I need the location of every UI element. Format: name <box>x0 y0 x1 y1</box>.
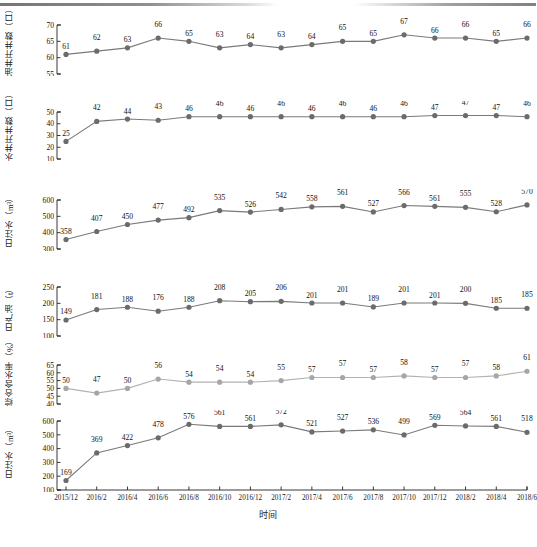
svg-text:600: 600 <box>43 417 55 426</box>
data-point <box>94 450 99 455</box>
data-label: 46 <box>185 104 193 113</box>
panel-plot-0: 5560657061626366656364636465656766666566 <box>0 14 536 76</box>
data-point <box>156 217 161 222</box>
data-point <box>248 42 253 47</box>
x-tick-2: 2016/4 <box>117 494 137 502</box>
x-axis-tick-labels: 2015/122016/22016/42016/62016/82016/1020… <box>0 494 536 506</box>
x-tick-13: 2018/2 <box>456 494 476 502</box>
data-point <box>309 375 314 380</box>
data-label: 526 <box>245 200 257 209</box>
svg-text:300: 300 <box>43 458 55 467</box>
chart-panel-0: 油井开井数（口）55606570616263666563646364656567… <box>0 14 536 76</box>
data-point <box>94 49 99 54</box>
data-point <box>94 229 99 234</box>
data-point <box>432 375 437 380</box>
data-label: 46 <box>277 101 285 108</box>
svg-text:200: 200 <box>43 472 55 481</box>
data-label: 527 <box>368 199 380 208</box>
svg-text:200: 200 <box>43 299 55 308</box>
x-tick-1: 2016/2 <box>87 494 107 502</box>
data-label: 542 <box>275 191 287 200</box>
svg-text:65: 65 <box>46 361 54 370</box>
data-point <box>371 114 376 119</box>
data-label: 46 <box>247 104 255 113</box>
data-label: 499 <box>398 417 410 426</box>
svg-text:250: 250 <box>43 283 55 292</box>
data-point <box>156 376 161 381</box>
data-point <box>248 299 253 304</box>
data-point <box>494 209 499 214</box>
data-label: 47 <box>93 375 101 384</box>
data-label: 62 <box>93 33 101 42</box>
data-label: 47 <box>492 103 500 112</box>
data-point <box>279 45 284 50</box>
data-label: 64 <box>308 32 316 41</box>
svg-text:150: 150 <box>43 315 55 324</box>
data-label: 65 <box>492 29 500 38</box>
data-point <box>309 114 314 119</box>
data-point <box>156 309 161 314</box>
data-label: 572 <box>275 410 287 416</box>
data-label: 208 <box>214 283 226 292</box>
data-label: 63 <box>277 30 285 39</box>
series-line <box>66 205 527 240</box>
data-label: 561 <box>491 414 503 423</box>
data-label: 200 <box>460 285 472 294</box>
series-line <box>66 301 527 320</box>
data-label: 54 <box>247 370 255 379</box>
data-point <box>309 300 314 305</box>
data-label: 57 <box>462 359 470 368</box>
data-point <box>463 301 468 306</box>
data-label: 46 <box>400 101 408 108</box>
svg-text:100: 100 <box>43 332 55 338</box>
data-point <box>125 305 130 310</box>
svg-text:55: 55 <box>46 376 54 385</box>
data-label: 66 <box>462 20 470 29</box>
data-label: 189 <box>368 294 380 303</box>
data-label: 201 <box>398 285 410 294</box>
data-point <box>524 369 529 374</box>
data-point <box>371 427 376 432</box>
data-label: 61 <box>62 42 70 51</box>
data-label: 149 <box>60 307 72 316</box>
data-point <box>248 209 253 214</box>
data-point <box>125 116 130 121</box>
data-point <box>371 209 376 214</box>
data-label: 61 <box>523 354 531 362</box>
chart-panel-3: 日产油（t）1001502002501491811881761882082052… <box>0 276 536 338</box>
data-label: 518 <box>521 414 533 423</box>
data-point <box>279 378 284 383</box>
data-point <box>432 35 437 40</box>
x-tick-14: 2018/4 <box>486 494 506 502</box>
data-label: 201 <box>337 285 349 294</box>
svg-text:50: 50 <box>46 384 54 393</box>
svg-text:55: 55 <box>46 70 54 76</box>
svg-text:400: 400 <box>43 444 55 453</box>
x-tick-6: 2016/12 <box>239 494 263 502</box>
data-point <box>217 298 222 303</box>
data-label: 64 <box>247 32 255 41</box>
data-point <box>463 205 468 210</box>
data-point <box>279 422 284 427</box>
x-tick-11: 2017/10 <box>392 494 416 502</box>
data-point <box>432 113 437 118</box>
data-label: 566 <box>398 189 410 197</box>
data-label: 176 <box>153 293 165 302</box>
data-point <box>217 208 222 213</box>
data-point <box>309 204 314 209</box>
data-point <box>63 478 68 483</box>
data-point <box>156 118 161 123</box>
data-point <box>186 39 191 44</box>
data-point <box>524 306 529 311</box>
data-label: 570 <box>521 189 533 196</box>
data-point <box>156 435 161 440</box>
data-point <box>401 114 406 119</box>
data-label: 185 <box>521 290 533 299</box>
data-label: 358 <box>60 227 72 236</box>
data-label: 66 <box>154 20 162 29</box>
svg-text:400: 400 <box>43 228 55 237</box>
x-tick-12: 2017/12 <box>423 494 447 502</box>
data-label: 46 <box>216 101 224 108</box>
series-line <box>66 424 527 480</box>
data-point <box>217 45 222 50</box>
